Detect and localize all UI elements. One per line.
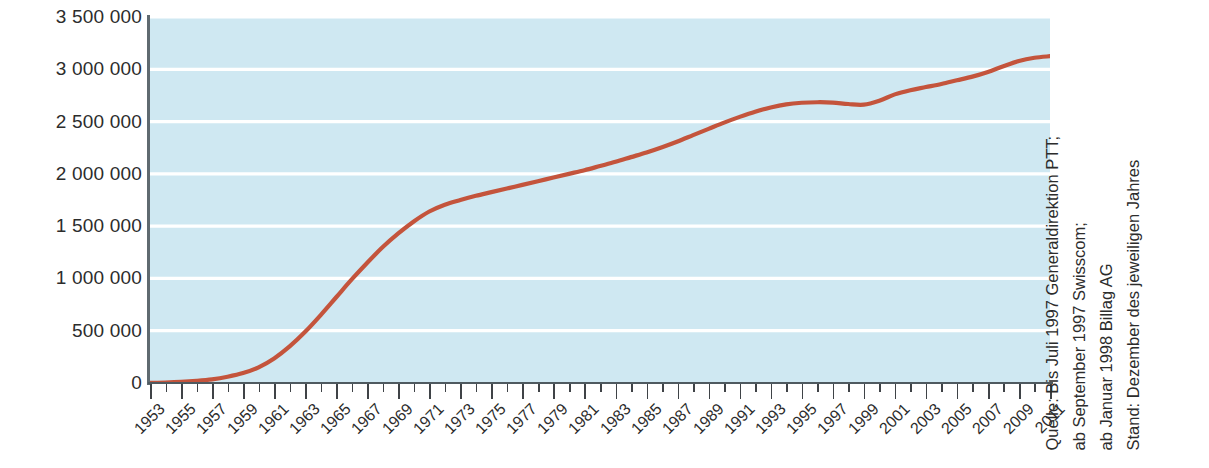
y-tick-label: 2 000 000 — [0, 163, 142, 185]
x-tick-major — [150, 384, 152, 399]
y-tick-label: 3 000 000 — [0, 58, 142, 80]
gridlines — [150, 17, 1050, 331]
y-tick-label: 2 500 000 — [0, 111, 142, 133]
plot-area — [150, 17, 1050, 383]
chart-figure: 3 500 0003 000 0002 500 0002 000 0001 50… — [0, 0, 1209, 468]
source-note-line: Stand: Dezember des jeweiligen Jahres — [1125, 159, 1142, 450]
y-tick-label: 1 500 000 — [0, 215, 142, 237]
source-note-line: Quelle: Bis Juli 1997 Generaldirektion P… — [1044, 135, 1061, 450]
source-note-line: ab Januar 1998 Billag AG — [1098, 263, 1115, 450]
y-tick-label: 0 — [0, 372, 142, 394]
y-axis: 3 500 0003 000 0002 500 0002 000 0001 50… — [0, 0, 142, 468]
y-tick-label: 500 000 — [0, 320, 142, 342]
y-tick-label: 1 000 000 — [0, 267, 142, 289]
x-axis-labels: 1953195519571959196119631965196719691971… — [150, 400, 1050, 468]
line-chart-svg — [150, 17, 1050, 383]
y-axis-line — [147, 15, 150, 385]
series-line-konzessionen — [150, 56, 1050, 383]
source-note-line: ab September 1997 Swisscom; — [1071, 222, 1088, 450]
source-note: Quelle: Bis Juli 1997 Generaldirektion P… — [1052, 0, 1209, 468]
y-tick-label: 3 500 000 — [0, 6, 142, 28]
